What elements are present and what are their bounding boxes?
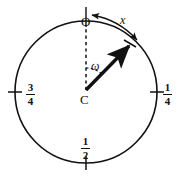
tick-label-three-quarter: 3 4 [26,82,35,107]
arc-end-tick [124,40,136,47]
label-point-o: O [81,15,90,28]
tick-label-quarter-denominator: 4 [164,96,172,107]
tick-label-three-quarter-denominator: 4 [27,96,35,107]
tick-label-quarter-numerator: 1 [164,82,172,93]
tick-label-quarter: 1 4 [163,82,172,107]
tick-label-half: 1 2 [81,136,90,161]
tick-label-half-numerator: 1 [82,136,90,147]
label-arc-x: x [120,14,125,26]
tick-label-half-denominator: 2 [82,150,90,161]
figure-container: O C ω x 1 4 1 2 3 4 [0,0,183,176]
tick-label-three-quarter-numerator: 3 [27,82,35,93]
label-point-c: C [80,93,89,106]
label-angle-omega: ω [91,60,99,72]
